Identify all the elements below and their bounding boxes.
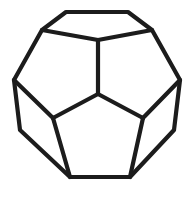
dodecahedron-drawing [0,0,195,198]
dodecahedron-figure [0,0,195,198]
